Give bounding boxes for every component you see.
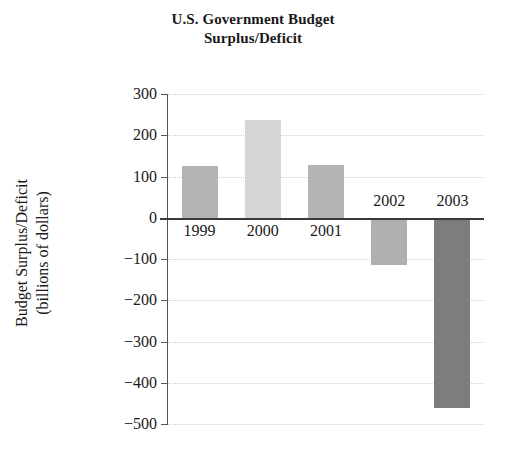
y-axis-tick-label: 0 (149, 209, 157, 227)
gridline (168, 424, 484, 425)
y-axis-tick (161, 424, 168, 425)
y-axis-tick-label: −100 (124, 250, 157, 268)
y-axis-tick-label: −300 (124, 333, 157, 351)
y-axis-tick (161, 135, 168, 136)
y-axis-title-line-1: Budget Surplus/Deficit (11, 179, 32, 327)
y-axis-title-line-2: (billions of dollars) (32, 179, 53, 327)
bar-label-2000: 2000 (247, 222, 279, 240)
bar-2001 (308, 165, 344, 218)
bar-2000 (245, 120, 281, 218)
y-axis-tick-label: −400 (124, 374, 157, 392)
bar-label-1999: 1999 (184, 222, 216, 240)
bar-label-2002: 2002 (373, 192, 405, 210)
y-axis-tick-label: −200 (124, 291, 157, 309)
zero-line (160, 218, 484, 220)
gridline (168, 94, 484, 95)
y-axis-tick (161, 300, 168, 301)
y-axis-tick-label: 200 (133, 126, 157, 144)
y-axis-tick (161, 342, 168, 343)
y-axis-tick-label: 300 (133, 85, 157, 103)
chart-title: U.S. Government Budget Surplus/Deficit (0, 10, 506, 48)
y-axis-tick-label: 100 (133, 168, 157, 186)
bar-2003 (434, 218, 470, 408)
y-axis-tick (161, 177, 168, 178)
chart-title-line-1: U.S. Government Budget (0, 10, 506, 29)
bar-2002 (371, 218, 407, 265)
y-axis-tick (161, 94, 168, 95)
chart-container: U.S. Government Budget Surplus/Deficit B… (0, 0, 506, 458)
bar-label-2003: 2003 (436, 192, 468, 210)
chart-title-line-2: Surplus/Deficit (0, 29, 506, 48)
bar-label-2001: 2001 (310, 222, 342, 240)
bar-1999 (182, 166, 218, 218)
y-axis-title: Budget Surplus/Deficit (billions of doll… (8, 88, 56, 418)
y-axis-tick-label: −500 (124, 415, 157, 433)
gridline (168, 135, 484, 136)
y-axis-tick (161, 259, 168, 260)
plot-area: 3002001000−100−200−300−400−500 199920002… (168, 94, 484, 424)
y-axis-tick (161, 383, 168, 384)
